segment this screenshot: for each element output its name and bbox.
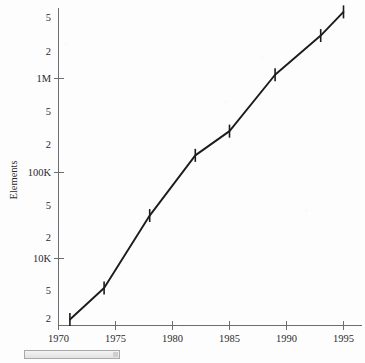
- data-series: [70, 5, 344, 326]
- y-axis-title: Elements: [8, 160, 19, 199]
- y-tick-label: 5: [46, 12, 51, 23]
- y-tick-label: 100K: [28, 167, 52, 178]
- y-tick-labels: 5 2 1M 5 2 100K 5 2 10K 5 2: [28, 12, 52, 324]
- x-tick-label: 1975: [105, 333, 126, 344]
- scroll-bar[interactable]: [24, 350, 120, 359]
- x-tick-label: 1985: [219, 333, 240, 344]
- y-tick-label: 5: [46, 200, 51, 211]
- y-tick-label: 2: [46, 313, 51, 324]
- x-tick-label: 1995: [333, 333, 354, 344]
- y-tick-label: 2: [46, 139, 51, 150]
- chart-page: 5 2 1M 5 2 100K 5 2 10K 5 2 1970 1975 19…: [0, 0, 365, 363]
- y-axis-title-text: Elements: [8, 160, 19, 199]
- x-tick-label: 1990: [276, 333, 297, 344]
- line-chart: 5 2 1M 5 2 100K 5 2 10K 5 2 1970 1975 19…: [0, 0, 365, 363]
- y-tick-label: 2: [46, 232, 51, 243]
- y-tick-label: 10K: [33, 253, 52, 264]
- series-line: [70, 12, 344, 320]
- x-tick-label: 1970: [48, 333, 69, 344]
- y-tick-label: 1M: [36, 73, 51, 84]
- x-tick-label: 1980: [162, 333, 183, 344]
- x-tick-labels: 1970 1975 1980 1985 1990 1995: [48, 333, 354, 344]
- scroll-bar-grip[interactable]: [113, 352, 118, 357]
- axes: [59, 8, 363, 326]
- y-tick-label: 2: [46, 46, 51, 57]
- y-tick-label: 5: [46, 106, 51, 117]
- y-tick-label: 5: [46, 285, 51, 296]
